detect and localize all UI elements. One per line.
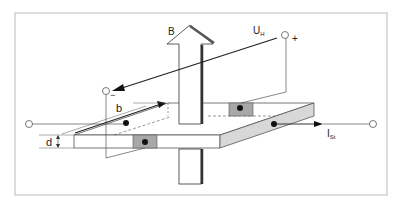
- label-minus: −: [110, 90, 115, 100]
- label-b-field: B: [168, 26, 175, 37]
- terminal-minus: [103, 88, 110, 95]
- terminal-right: [370, 121, 377, 128]
- charge-dot: [237, 105, 243, 111]
- label-width: b: [116, 102, 122, 114]
- label-plus: +: [292, 33, 298, 44]
- label-thickness: d: [46, 136, 52, 148]
- charge-dot: [123, 120, 129, 126]
- terminal-plus: [282, 32, 289, 39]
- terminal-left: [26, 121, 33, 128]
- charge-dot: [142, 139, 148, 145]
- hall-effect-diagram: B UH + − b d ISt: [0, 0, 405, 211]
- charge-dot: [271, 121, 277, 127]
